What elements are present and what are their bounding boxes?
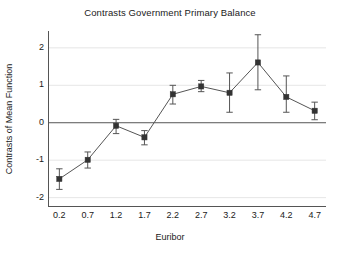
x-axis-tick-label: 0.7 (81, 211, 94, 220)
data-point-marker (312, 108, 317, 113)
axis-lines (48, 31, 326, 207)
data-point-marker (170, 92, 175, 97)
x-axis-tick-label: 0.2 (53, 211, 66, 220)
x-axis-tick-label: 1.2 (110, 211, 123, 220)
data-point-marker (255, 60, 260, 65)
data-markers (57, 60, 318, 182)
x-axis-tick-label: 3.7 (252, 211, 265, 220)
series-line (59, 62, 314, 178)
y-axis-tick-labels: 210-1-2 (18, 31, 44, 207)
x-axis-label: Euribor (0, 232, 340, 242)
x-axis-tick-label: 3.2 (223, 211, 236, 220)
y-axis-tick-label: 1 (39, 80, 44, 89)
x-axis-tick-labels: 0.20.71.21.72.22.73.23.74.24.7 (48, 211, 326, 225)
data-point-marker (284, 94, 289, 99)
plot-svg (48, 31, 326, 207)
x-axis-tick-label: 1.7 (138, 211, 151, 220)
chart-container: Contrasts Government Primary Balance Con… (0, 0, 340, 255)
data-point-marker (142, 135, 147, 140)
data-point-marker (113, 123, 118, 128)
chart-title: Contrasts Government Primary Balance (0, 7, 340, 18)
y-axis-tick-label: 2 (39, 43, 44, 52)
data-point-marker (199, 84, 204, 89)
y-axis-tick-label: -1 (36, 155, 44, 164)
axis-tick-marks (48, 48, 315, 207)
data-point-marker (57, 176, 62, 181)
x-axis-tick-label: 4.2 (280, 211, 293, 220)
x-axis-tick-label: 2.2 (167, 211, 180, 220)
y-axis-tick-label: 0 (39, 118, 44, 127)
data-point-marker (227, 90, 232, 95)
x-axis-tick-label: 4.7 (308, 211, 321, 220)
y-axis-tick-label: -2 (36, 193, 44, 202)
y-axis-label-container: Contrasts of Mean Function (2, 31, 16, 207)
error-bars (56, 35, 318, 190)
x-axis-tick-label: 2.7 (195, 211, 208, 220)
plot-area (48, 31, 326, 207)
data-point-marker (85, 157, 90, 162)
data-line (59, 62, 314, 178)
y-axis-label: Contrasts of Mean Function (4, 64, 14, 175)
